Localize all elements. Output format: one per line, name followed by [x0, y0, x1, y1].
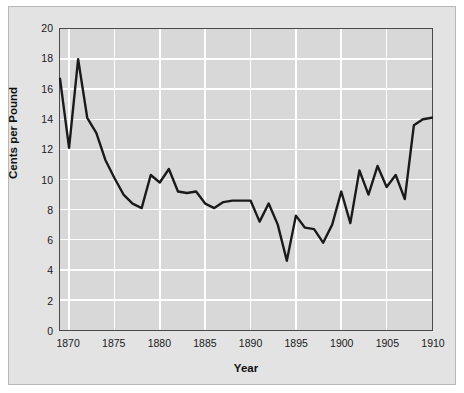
data-series-line-0	[60, 59, 432, 261]
data-layer	[60, 29, 432, 330]
x-tick-label: 1895	[284, 337, 307, 349]
x-tick-label: 1870	[56, 337, 79, 349]
x-tick-label: 1900	[330, 337, 353, 349]
x-tick-label: 1875	[102, 337, 125, 349]
chart-card: Cents per Pound Year 02468101214161820 1…	[8, 6, 456, 385]
x-tick-label: 1885	[193, 337, 216, 349]
y-axis-title: Cents per Pound	[7, 87, 19, 179]
x-tick-label: 1880	[148, 337, 171, 349]
y-tick-label: 4	[23, 264, 53, 276]
y-tick-label: 8	[23, 204, 53, 216]
y-tick-label: 6	[23, 234, 53, 246]
x-tick-label: 1890	[239, 337, 262, 349]
plot-area	[59, 28, 433, 331]
y-tick-label: 10	[23, 174, 53, 186]
x-tick-label: 1905	[376, 337, 399, 349]
y-tick-label: 0	[23, 325, 53, 337]
y-tick-label: 16	[23, 83, 53, 95]
chart-figure: Cents per Pound Year 02468101214161820 1…	[0, 0, 464, 393]
x-axis-title: Year	[234, 362, 258, 374]
y-tick-label: 12	[23, 143, 53, 155]
y-tick-label: 14	[23, 113, 53, 125]
y-tick-label: 18	[23, 52, 53, 64]
y-tick-label: 20	[23, 22, 53, 34]
y-tick-label: 2	[23, 295, 53, 307]
x-tick-label: 1910	[421, 337, 444, 349]
